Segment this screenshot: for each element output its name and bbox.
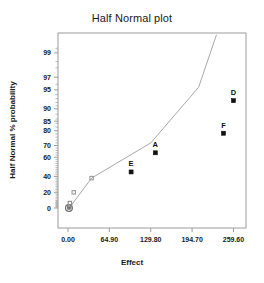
data-point-labels: EAFD [129,88,237,168]
data-points [66,99,236,212]
data-point-D [231,99,235,103]
y-tick-label-90: 90 [43,105,51,112]
x-axis-tick-labels: 0.0064.90129.80194.70259.60 [61,236,244,243]
data-point-label-A: A [153,140,159,149]
data-point-label-D: D [231,88,237,97]
data-point-F [222,131,226,135]
y-tick-label-99: 99 [43,49,51,56]
x-tick-label-64.90: 64.90 [101,236,119,243]
y-tick-label-97: 97 [43,74,51,81]
y-tick-label-20: 20 [43,189,51,196]
y-tick-label-0: 0 [47,205,51,212]
data-point-A [153,151,157,155]
reference-line-path [69,35,216,208]
data-point-unlabeled-2 [68,201,71,204]
y-tick-label-85: 85 [43,118,51,125]
data-point-unlabeled-3 [72,191,75,194]
y-axis-tick-labels: 020406070808590959799 [43,49,51,211]
data-point-label-E: E [129,159,134,168]
y-tick-label-60: 60 [43,154,51,161]
x-axis-major-ticks [68,228,233,232]
x-tick-label-0.00: 0.00 [61,236,75,243]
half-normal-plot-figure: Half Normal plot Half Normal % probabili… [0,0,264,283]
x-tick-label-259.60: 259.60 [223,236,245,243]
y-tick-label-40: 40 [43,173,51,180]
data-point-E [129,170,133,174]
data-point-label-F: F [221,121,226,130]
x-tick-label-129.80: 129.80 [140,236,162,243]
y-tick-label-80: 80 [43,127,51,134]
plot-frame [58,33,246,228]
y-tick-label-70: 70 [43,142,51,149]
x-tick-label-194.70: 194.70 [181,236,203,243]
y-tick-label-95: 95 [43,86,51,93]
reference-line [69,35,216,208]
plot-canvas: 020406070808590959799 0.0064.90129.80194… [0,0,264,283]
